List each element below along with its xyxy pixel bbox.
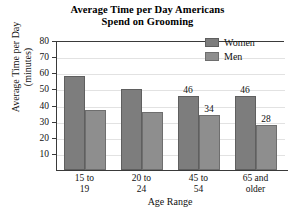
chart-title-line-1: Average Time per Day Americans	[71, 4, 225, 15]
y-axis-tick-label: 70	[19, 52, 49, 62]
x-axis-category-line-1: 65 and	[243, 173, 269, 183]
y-axis-tick	[52, 73, 56, 74]
chart-title: Average Time per Day Americans Spend on …	[0, 4, 295, 28]
y-axis-tick-label: 20	[19, 133, 49, 143]
y-axis-tick-label: 10	[19, 149, 49, 159]
bar-women-2	[121, 89, 142, 170]
legend-item-men: Men	[205, 50, 291, 63]
y-axis-tick-label: 30	[19, 117, 49, 127]
bar-value-label: 28	[254, 114, 278, 124]
bar-women-3	[178, 96, 199, 170]
y-axis-tick-label: 40	[19, 101, 49, 111]
y-axis-tick	[52, 106, 56, 107]
x-axis-title: Age Range	[56, 196, 284, 207]
y-axis-tick-label: 80	[19, 36, 49, 46]
y-axis-tick	[52, 154, 56, 155]
x-axis-category-label: 15 to19	[53, 173, 117, 195]
bar-value-label: 46	[176, 85, 200, 95]
bar-chart: Average Time per Day Americans Spend on …	[0, 0, 295, 217]
y-axis-tick	[52, 41, 56, 42]
gridline	[57, 74, 285, 75]
y-axis-tick	[52, 89, 56, 90]
x-axis-category-label: 20 to24	[110, 173, 174, 195]
y-axis-tick	[52, 57, 56, 58]
legend-label-men: Men	[224, 51, 242, 62]
legend: WomenMen	[205, 36, 291, 64]
y-axis-tick-label: 50	[19, 84, 49, 94]
x-axis-category-label: 45 to54	[167, 173, 231, 195]
chart-title-line-2: Spend on Grooming	[0, 16, 295, 28]
bar-women-4	[235, 96, 256, 170]
bar-men-3	[199, 115, 220, 170]
y-axis-tick	[52, 138, 56, 139]
bar-men-2	[142, 112, 163, 170]
x-axis-category-line-1: 45 to	[189, 173, 208, 183]
x-axis-category-line-2: 19	[53, 184, 117, 195]
bar-men-1	[85, 110, 106, 170]
x-axis-category-line-2: 24	[110, 184, 174, 195]
legend-swatch-men	[205, 52, 219, 61]
x-axis-category-line-2: older	[224, 184, 288, 195]
y-axis-tick	[52, 122, 56, 123]
x-axis-category-line-2: 54	[167, 184, 231, 195]
legend-swatch-women	[205, 38, 219, 47]
bar-value-label: 46	[233, 85, 257, 95]
y-axis-tick-label: 60	[19, 68, 49, 78]
legend-label-women: Women	[224, 37, 255, 48]
x-axis-line	[56, 170, 288, 171]
bar-value-label: 34	[197, 104, 221, 114]
bar-men-4	[256, 125, 277, 170]
legend-item-women: Women	[205, 36, 291, 49]
bar-women-1	[64, 76, 85, 170]
x-axis-category-label: 65 andolder	[224, 173, 288, 195]
x-axis-category-line-1: 20 to	[132, 173, 151, 183]
x-axis-category-line-1: 15 to	[75, 173, 94, 183]
